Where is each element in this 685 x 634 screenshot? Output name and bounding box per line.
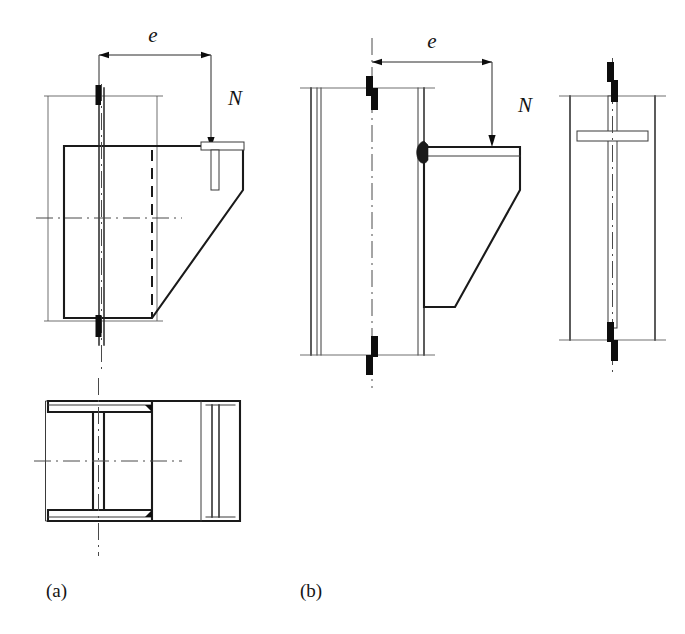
label-force-b: N [517,93,533,117]
side-weld-mark-bottom-lower-b [611,340,618,361]
bearing-plate-a [201,142,244,150]
weld-mark-bottom-upper-b [371,336,378,357]
label-eccentricity-a: e [148,23,157,47]
plan-top-flange-a [48,401,152,412]
weld-mark-top-a [96,85,102,105]
figure-canvas: e N (a) [0,0,685,634]
label-eccentricity-b: e [427,29,436,53]
stiffener-plate-a [211,150,219,190]
label-force-a: N [227,86,243,110]
side-weld-mark-bottom-upper-b [607,322,614,342]
plan-bottom-flange-a [48,510,152,521]
side-weld-mark-top-upper-b [607,62,614,82]
engineering-figure: e N (a) [0,0,685,634]
caption-panel-b: (b) [300,580,322,602]
weld-mark-top-lower-b [371,88,378,110]
weld-mark-bottom-a [96,315,102,337]
side-weld-mark-top-lower-b [611,80,618,102]
caption-panel-a: (a) [46,580,67,602]
weld-mark-bottom-lower-b [366,355,373,375]
